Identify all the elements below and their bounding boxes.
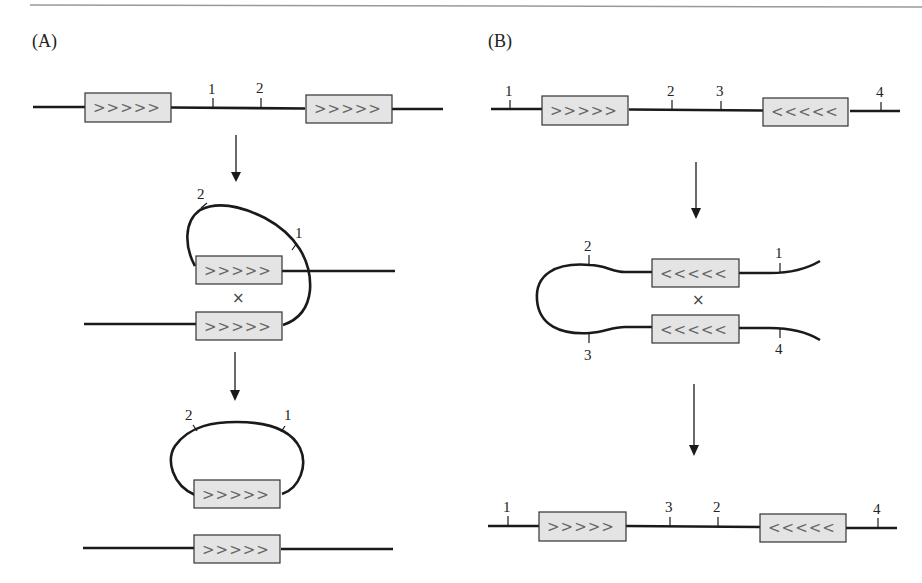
panel-b-step1-dna: 1 2 3 4 >>>>> <<<<< bbox=[491, 83, 900, 126]
repeat-direct-icon: >>>>> bbox=[550, 102, 618, 120]
site-label: 2 bbox=[185, 407, 193, 423]
site-label: 1 bbox=[503, 499, 511, 515]
repeat-direct-icon: >>>>> bbox=[93, 99, 161, 117]
site-label: 1 bbox=[505, 83, 513, 99]
panel-a-step3-dna: 2 1 >>>>> >>>>> bbox=[83, 407, 393, 563]
site-label: 4 bbox=[775, 341, 783, 357]
site-label: 3 bbox=[584, 347, 592, 363]
panel-a-step1-dna: 1 2 >>>>> >>>>> bbox=[33, 80, 443, 123]
repeat-inverted-icon: <<<<< bbox=[768, 519, 836, 537]
crossover-icon: × bbox=[232, 289, 245, 307]
site-label: 4 bbox=[876, 84, 884, 100]
top-rule bbox=[30, 5, 922, 7]
repeat-direct-icon: >>>>> bbox=[314, 100, 382, 118]
site-label: 2 bbox=[584, 238, 592, 254]
repeat-inverted-icon: <<<<< bbox=[771, 103, 839, 121]
site-label: 3 bbox=[665, 499, 673, 515]
panel-b: (B) 1 2 3 4 >>>>> <<<<< bbox=[488, 31, 900, 542]
site-label: 2 bbox=[256, 80, 264, 96]
site-label: 4 bbox=[873, 501, 881, 517]
repeat-direct-icon: >>>>> bbox=[202, 486, 270, 504]
site-label: 1 bbox=[295, 225, 303, 241]
site-label: 1 bbox=[208, 81, 216, 97]
site-label: 1 bbox=[775, 245, 783, 261]
panel-a-step2-dna: 2 1 >>>>> × >>>>> bbox=[84, 186, 395, 340]
panel-b-step3-dna: 1 3 2 4 >>>>> <<<<< bbox=[488, 499, 897, 542]
panel-b-label: (B) bbox=[488, 31, 512, 52]
site-label: 1 bbox=[284, 407, 292, 423]
repeat-direct-icon: >>>>> bbox=[204, 262, 272, 280]
panel-b-step2-dna: 2 1 3 4 <<<<< × <<<<< bbox=[537, 238, 820, 363]
site-label: 2 bbox=[713, 499, 721, 515]
repeat-inverted-icon: <<<<< bbox=[660, 321, 728, 339]
site-label: 2 bbox=[667, 83, 675, 99]
arrowhead-icon bbox=[691, 208, 701, 219]
arrowhead-icon bbox=[230, 390, 240, 401]
repeat-direct-icon: >>>>> bbox=[202, 541, 270, 559]
repeat-direct-icon: >>>>> bbox=[204, 318, 272, 336]
recombination-diagram: (A) 1 2 >>>>> >>>>> 2 1 >>>>> bbox=[0, 0, 922, 583]
arrowhead-icon bbox=[231, 172, 241, 182]
panel-a-label: (A) bbox=[32, 31, 57, 52]
panel-a: (A) 1 2 >>>>> >>>>> 2 1 >>>>> bbox=[32, 31, 443, 563]
site-label: 3 bbox=[716, 83, 724, 99]
arrowhead-icon bbox=[689, 445, 699, 456]
repeat-inverted-icon: <<<<< bbox=[660, 265, 728, 283]
repeat-direct-icon: >>>>> bbox=[547, 518, 615, 536]
site-label: 2 bbox=[197, 186, 205, 202]
crossover-icon: × bbox=[692, 291, 705, 309]
